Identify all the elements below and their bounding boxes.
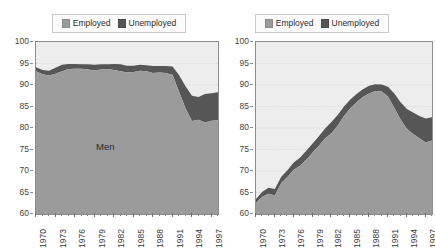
y-axis-tick-label: 100: [235, 37, 249, 46]
y-axis-tick-mark: [30, 149, 33, 150]
x-axis-tick-mark: [211, 213, 212, 217]
y-axis-tick-mark: [250, 127, 253, 128]
x-axis-tick-mark: [324, 213, 325, 216]
x-axis-tick-mark: [425, 213, 426, 217]
x-axis-tick-mark: [418, 213, 419, 216]
legend-women: Employed Unemployed: [255, 14, 389, 33]
x-axis-tick-label: 1988: [372, 229, 381, 248]
x-axis-tick-label: 1979: [316, 229, 325, 248]
x-axis-tick-label: 1982: [117, 229, 126, 248]
y-axis-tick-mark: [250, 106, 253, 107]
x-axis-tick-mark: [312, 213, 313, 217]
y-axis-tick-label: 75: [240, 144, 249, 153]
x-axis-tick-mark: [393, 213, 394, 216]
y-axis-tick-mark: [30, 84, 33, 85]
x-axis-tick-mark: [362, 213, 363, 216]
x-axis-tick-mark: [55, 213, 56, 217]
x-axis-tick-mark: [286, 213, 287, 216]
y-axis-tick-label: 90: [240, 80, 249, 89]
x-axis-tick-mark: [356, 213, 357, 216]
x-axis-tick-mark: [94, 213, 95, 217]
chart-figure: Employed Unemployed 1009590858075706560 …: [0, 0, 435, 252]
x-axis-tick-label: 1988: [156, 229, 165, 248]
x-axis-tick-mark: [107, 213, 108, 216]
area-chart-women: [256, 42, 432, 214]
x-axis-tick-mark: [42, 213, 43, 216]
y-axis-tick-mark: [30, 41, 33, 42]
x-axis-tick-mark: [400, 213, 401, 216]
y-axis-tick-mark: [30, 213, 33, 214]
x-axis-tick-label: 1982: [334, 229, 343, 248]
x-axis-tick-mark: [139, 213, 140, 216]
x-axis-tick-mark: [387, 213, 388, 217]
x-axis-tick-mark: [431, 213, 432, 216]
x-axis-tick-label: 1970: [39, 229, 48, 248]
legend-men: Employed Unemployed: [52, 14, 186, 33]
legend-item-employed: Employed: [62, 19, 111, 28]
legend-item-unemployed: Unemployed: [118, 19, 177, 28]
x-axis-tick-mark: [198, 213, 199, 216]
area-chart-men: [36, 42, 218, 214]
x-axis-tick-mark: [165, 213, 166, 216]
x-axis-labels-women: 1970197319761979198219851988199119941997: [255, 218, 431, 252]
x-axis-tick-mark: [274, 213, 275, 217]
x-axis-tick-label: 1976: [297, 229, 306, 248]
x-axis-tick-mark: [349, 213, 350, 217]
y-axis-tick-mark: [250, 41, 253, 42]
x-axis-tick-mark: [35, 213, 36, 217]
x-axis-tick-mark: [68, 213, 69, 216]
y-axis-tick-label: 80: [240, 123, 249, 132]
y-axis-tick-label: 95: [240, 58, 249, 67]
x-axis-tick-mark: [280, 213, 281, 216]
x-axis-tick-mark: [146, 213, 147, 216]
x-axis-tick-label: 1997: [429, 229, 435, 248]
x-axis-tick-mark: [152, 213, 153, 217]
x-axis-tick-mark: [185, 213, 186, 216]
x-axis-tick-mark: [255, 213, 256, 217]
y-axis-tick-label: 70: [240, 166, 249, 175]
chart-panel-women: Employed Unemployed 1009590858075706560 …: [218, 0, 435, 252]
y-axis-tick-label: 65: [240, 187, 249, 196]
x-axis-tick-label: 1979: [98, 229, 107, 248]
x-axis-tick-mark: [100, 213, 101, 216]
x-axis-tick-label: 1973: [278, 229, 287, 248]
x-axis-tick-label: 1991: [176, 229, 185, 248]
x-axis-tick-mark: [113, 213, 114, 217]
x-axis-tick-mark: [133, 213, 134, 217]
y-axis-tick-label: 60: [20, 209, 29, 218]
series-label-men: Men: [96, 141, 114, 152]
x-axis-tick-mark: [412, 213, 413, 216]
x-axis-tick-mark: [191, 213, 192, 217]
x-axis-tick-label: 1985: [353, 229, 362, 248]
chart-panel-men: Employed Unemployed 1009590858075706560 …: [0, 0, 217, 252]
y-axis-tick-label: 85: [20, 101, 29, 110]
unemployed-swatch-icon: [321, 19, 329, 28]
y-axis-tick-label: 100: [15, 37, 29, 46]
x-axis-tick-label: 1994: [410, 229, 419, 248]
x-axis-tick-mark: [120, 213, 121, 216]
x-axis-tick-mark: [261, 213, 262, 216]
x-axis-tick-mark: [268, 213, 269, 216]
plot-area-women: [255, 41, 433, 215]
x-axis-tick-mark: [172, 213, 173, 217]
y-axis-tick-mark: [250, 192, 253, 193]
x-axis-tick-mark: [81, 213, 82, 216]
y-axis-tick-label: 60: [240, 209, 249, 218]
x-axis-tick-mark: [343, 213, 344, 216]
x-axis-tick-mark: [318, 213, 319, 216]
y-axis-tick-mark: [250, 149, 253, 150]
y-axis-tick-mark: [30, 127, 33, 128]
x-axis-tick-mark: [126, 213, 127, 216]
x-axis-tick-mark: [61, 213, 62, 216]
x-axis-tick-label: 1991: [391, 229, 400, 248]
y-axis-tick-mark: [30, 63, 33, 64]
x-axis-tick-mark: [381, 213, 382, 216]
x-axis-tick-mark: [74, 213, 75, 217]
x-axis-tick-mark: [87, 213, 88, 216]
y-axis-tick-label: 65: [20, 187, 29, 196]
x-axis-tick-mark: [293, 213, 294, 217]
x-axis-tick-mark: [305, 213, 306, 216]
employed-swatch-icon: [62, 19, 70, 28]
employed-swatch-icon: [265, 19, 273, 28]
y-axis-tick-label: 70: [20, 166, 29, 175]
